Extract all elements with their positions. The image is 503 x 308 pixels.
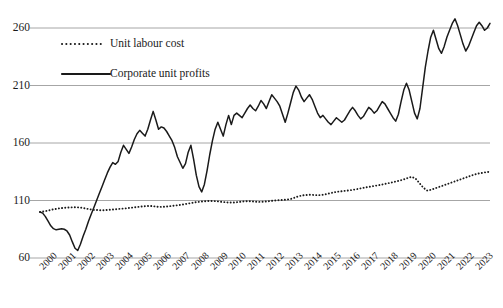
legend-label-corporate-unit-profits: Corporate unit profits [110, 67, 210, 79]
gridlines [30, 28, 490, 258]
chart-container: 26021016011060 2000200120022003200420052… [0, 0, 503, 308]
series-lines [40, 19, 490, 251]
y-tick-label-160: 160 [0, 137, 30, 149]
y-tick-label-210: 210 [0, 80, 30, 92]
y-tick-label-110: 110 [0, 195, 30, 207]
series-line-unit-labour-cost [40, 172, 490, 212]
y-tick-label-60: 60 [0, 252, 30, 264]
legend-label-unit-labour-cost: Unit labour cost [110, 37, 184, 49]
legend-marks [62, 44, 110, 74]
y-tick-label-260: 260 [0, 22, 30, 34]
series-line-corporate-unit-profits [40, 19, 490, 251]
